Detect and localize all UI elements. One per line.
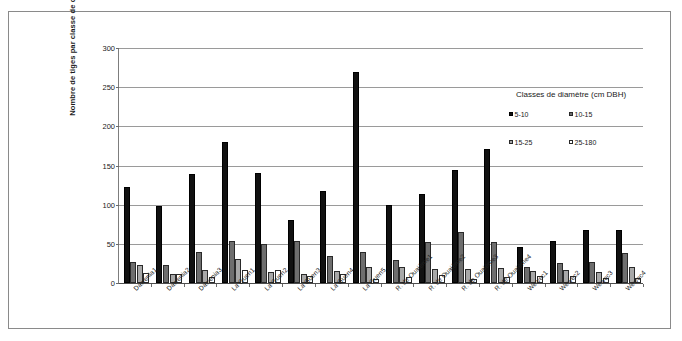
bar-group: [189, 48, 215, 283]
bar: [124, 187, 130, 283]
chart-legend: Classes de diamètre (cm DBH) 5-1010-1515…: [481, 90, 661, 152]
bar: [327, 256, 333, 283]
y-axis-tick-label: 50: [91, 239, 115, 248]
legend-swatch-icon: [569, 112, 573, 116]
y-axis-tick-mark: [116, 166, 119, 167]
bar-group: [124, 48, 150, 283]
bar: [557, 263, 563, 283]
bar-group: [222, 48, 248, 283]
bar: [196, 252, 202, 283]
bar-group: [386, 48, 412, 283]
y-axis-tick-mark: [116, 205, 119, 206]
bar: [353, 72, 359, 283]
chart-frame: Nombre de tiges par classe de diamètre 0…: [8, 11, 671, 329]
y-axis-tick-mark: [116, 283, 119, 284]
bar-group: [517, 48, 543, 283]
bar-group: [156, 48, 182, 283]
bar: [616, 230, 622, 283]
bar: [360, 252, 366, 283]
legend-label: 5-10: [515, 111, 529, 118]
legend-swatch-icon: [509, 140, 513, 144]
bar-group: [255, 48, 281, 283]
legend-entry: 5-10: [509, 110, 529, 118]
legend-entry: 15-25: [509, 138, 532, 146]
bar: [550, 241, 556, 283]
bar: [386, 205, 392, 283]
legend-entry: 25-180: [569, 138, 596, 146]
bar-group: [288, 48, 314, 283]
bar-group: [583, 48, 609, 283]
x-axis-category-labels: Dawenia1Dawenia2Dawenia3La Guen1La Guen2…: [118, 287, 658, 341]
bar: [229, 241, 235, 283]
bar: [189, 174, 195, 283]
bar: [589, 262, 595, 283]
y-axis-tick-label: 150: [91, 161, 115, 170]
y-axis-tick-mark: [116, 48, 119, 49]
bar: [255, 173, 261, 283]
y-axis-tick-mark: [116, 87, 119, 88]
bar: [393, 260, 399, 283]
y-axis-tick-label: 200: [91, 122, 115, 131]
plot-area: [118, 48, 643, 284]
plot-inner: [118, 48, 643, 284]
y-axis-tick-mark: [116, 244, 119, 245]
legend-title: Classes de diamètre (cm DBH): [481, 90, 661, 99]
bar-group: [484, 48, 510, 283]
bar: [294, 241, 300, 283]
bar: [622, 253, 628, 283]
y-axis-tick-mark: [116, 126, 119, 127]
legend-label: 15-25: [515, 139, 533, 146]
legend-label: 25-180: [575, 139, 597, 146]
bar-group: [320, 48, 346, 283]
bar-group: [353, 48, 379, 283]
bar-group: [452, 48, 478, 283]
legend-entry: 10-15: [569, 110, 592, 118]
y-axis-tick-labels: 050100150200250300: [89, 48, 115, 284]
bar-group: [550, 48, 576, 283]
bar: [261, 244, 267, 283]
y-axis-tick-label: 250: [91, 83, 115, 92]
y-axis-tick-label: 300: [91, 44, 115, 53]
bar: [320, 191, 326, 283]
legend-swatch-icon: [509, 112, 513, 116]
y-axis-tick-label: 100: [91, 200, 115, 209]
legend-swatch-icon: [569, 140, 573, 144]
bar: [524, 267, 530, 283]
legend-label: 10-15: [575, 111, 593, 118]
y-axis-title: Nombre de tiges par classe de diamètre: [66, 0, 80, 128]
bar: [583, 230, 589, 283]
bar: [222, 142, 228, 283]
bar-group: [419, 48, 445, 283]
bar-group: [616, 48, 642, 283]
bar: [288, 220, 294, 283]
y-axis-tick-label: 0: [91, 279, 115, 288]
bar: [163, 265, 169, 283]
bar: [130, 262, 136, 283]
